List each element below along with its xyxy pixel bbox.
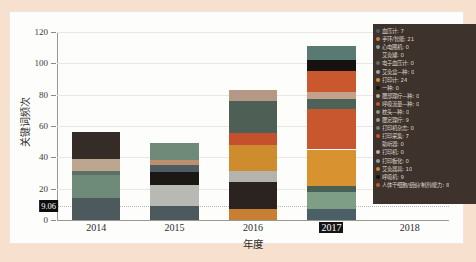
bar-segment[interactable] [229, 133, 278, 145]
x-axis-label: 年度 [57, 236, 449, 251]
bar-segment[interactable] [307, 109, 356, 150]
y-tick-label: 100 [35, 58, 49, 68]
bar-segment[interactable] [150, 206, 199, 220]
bar-segment[interactable] [150, 143, 199, 160]
bar-segment[interactable] [72, 175, 121, 199]
y-axis-tick [51, 95, 56, 96]
legend-label: 呼吸机: 9 [382, 173, 404, 181]
y-tick-label: 120 [35, 27, 49, 37]
legend-swatch-icon [376, 37, 380, 41]
legend-item[interactable]: 腰部理疗—种: 0 [376, 92, 474, 100]
bar-segment[interactable] [72, 132, 121, 159]
legend-label: 艾灸器具: 10 [382, 165, 412, 173]
bar-segment[interactable] [307, 150, 356, 186]
legend-item[interactable]: 一种: 0 [376, 84, 474, 92]
legend-item[interactable]: 艾灸罐: 0 [376, 51, 474, 59]
legend-swatch-icon [376, 126, 380, 130]
y-tick-label: 20 [39, 184, 48, 194]
legend-label: 呼吸流量—种: 0 [382, 100, 419, 108]
bar-segment[interactable] [150, 160, 199, 165]
bar-segment[interactable] [307, 71, 356, 91]
bar-segment[interactable] [150, 185, 199, 206]
legend-item[interactable]: 打印机: 0 [376, 148, 474, 156]
bar-segment[interactable] [307, 60, 356, 71]
bar-segment[interactable] [229, 145, 278, 172]
legend-item[interactable]: 打印机杂志: 0 [376, 124, 474, 132]
y-axis-label: 关键词频次 [17, 97, 32, 147]
y-tick-label: 0 [44, 215, 49, 225]
bar-segment[interactable] [229, 101, 278, 133]
legend-item[interactable]: 腰定理疗: 9 [376, 116, 474, 124]
x-tick-label-2015[interactable]: 2015 [165, 222, 185, 233]
legend-item[interactable]: 艾灸盒—种: 0 [376, 67, 474, 75]
legend-label: 枕头—种: 0 [382, 108, 409, 116]
legend-swatch-icon [376, 134, 380, 138]
legend-label: 电子血压计: 0 [382, 59, 414, 67]
bar-segment[interactable] [307, 99, 356, 108]
bar-segment[interactable] [72, 159, 121, 172]
chart-card: 关键词频次 年度 0204060801001209.06 20142015201… [9, 11, 464, 244]
bar-segment[interactable] [307, 186, 356, 192]
bar-segment[interactable] [72, 171, 121, 174]
bar-segment[interactable] [307, 46, 356, 60]
legend-item[interactable]: 呼吸流量—种: 0 [376, 100, 474, 108]
legend-item[interactable]: 电子血压计: 0 [376, 59, 474, 67]
legend-item[interactable]: 心电图机: 0 [376, 43, 474, 51]
bar-stack[interactable] [150, 32, 199, 220]
legend-label: 人体干细胞/组织/制剂/能力: 8 [382, 181, 449, 189]
legend-item[interactable]: 血压计: 7 [376, 27, 474, 35]
legend-item[interactable]: 手环/智能: 21 [376, 35, 474, 43]
bar-stack[interactable] [229, 32, 278, 220]
y-tick-label: 80 [39, 90, 48, 100]
legend-label: 手环/智能: 21 [382, 35, 414, 43]
bar-stack[interactable] [307, 32, 356, 220]
legend-item[interactable]: 助听器: 0 [376, 140, 474, 148]
bar-stack[interactable] [72, 32, 121, 220]
bar-segment[interactable] [150, 165, 199, 172]
x-tick-label-2014[interactable]: 2014 [86, 222, 106, 233]
bar-segment[interactable] [307, 209, 356, 220]
bar-segment[interactable] [150, 172, 199, 185]
legend-swatch-icon [376, 45, 380, 49]
chart-legend[interactable]: 血压计: 7手环/智能: 21心电图机: 0艾灸罐: 0电子血压计: 0艾灸盒—… [373, 24, 476, 204]
bar-segment[interactable] [307, 192, 356, 209]
x-tick-label-2018[interactable]: 2018 [400, 222, 420, 233]
legend-label: 打印计: 24 [382, 76, 407, 84]
x-tick-label-2017[interactable]: 2017 [319, 222, 343, 233]
x-tick-label-2016[interactable]: 2016 [243, 222, 263, 233]
legend-label: 打印机: 0 [382, 148, 404, 156]
bar-segment[interactable] [229, 171, 278, 181]
y-tick-label: 40 [39, 152, 48, 162]
legend-swatch-icon [376, 86, 380, 90]
legend-label: 打印板化: 0 [382, 157, 409, 165]
bar-segment[interactable] [307, 92, 356, 100]
legend-swatch-icon [376, 53, 380, 57]
y-axis-tick [51, 126, 56, 127]
legend-item[interactable]: 人体干细胞/组织/制剂/能力: 8 [376, 181, 474, 189]
y-axis-tick [51, 32, 56, 33]
y-tick-label: 60 [39, 121, 48, 131]
legend-item[interactable]: 打印计: 24 [376, 76, 474, 84]
legend-swatch-icon [376, 70, 380, 74]
legend-label: 艾灸罐: 0 [382, 51, 404, 59]
bar-segment[interactable] [229, 209, 278, 220]
bar-segment[interactable] [229, 90, 278, 101]
legend-label: 打印采集: 7 [382, 132, 409, 140]
legend-label: 血压计: 7 [382, 27, 404, 35]
bar-segment[interactable] [229, 182, 278, 209]
legend-swatch-icon [376, 61, 380, 65]
legend-swatch-icon [376, 167, 380, 171]
legend-item[interactable]: 艾灸器具: 10 [376, 165, 474, 173]
y-axis-tick [51, 220, 56, 221]
legend-item[interactable]: 打印板化: 0 [376, 157, 474, 165]
legend-item[interactable]: 打印采集: 7 [376, 132, 474, 140]
legend-swatch-icon [376, 150, 380, 154]
legend-item[interactable]: 枕头—种: 0 [376, 108, 474, 116]
legend-item[interactable]: 呼吸机: 9 [376, 173, 474, 181]
y-axis-tick [51, 157, 56, 158]
bar-segment[interactable] [72, 198, 121, 220]
legend-swatch-icon [376, 159, 380, 163]
legend-label: 腰定理疗: 9 [382, 116, 409, 124]
legend-swatch-icon [376, 29, 380, 33]
